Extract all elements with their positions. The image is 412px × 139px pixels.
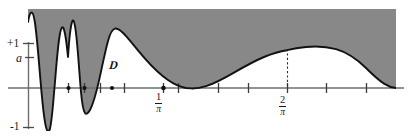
shaded-region-D bbox=[28, 9, 396, 132]
shade-path bbox=[28, 9, 396, 132]
zero-dot-3 bbox=[110, 86, 114, 90]
y-label-plus-one: +1 bbox=[7, 38, 19, 50]
x-label-two-over-pi-numerator: 2 bbox=[279, 95, 286, 106]
plot-svg bbox=[0, 0, 412, 139]
zero-dot-4 bbox=[161, 86, 166, 91]
zero-dot-1 bbox=[66, 86, 70, 90]
figure-container: +1 a -1 1 π 2 π D bbox=[0, 0, 412, 139]
x-label-two-over-pi-denominator: π bbox=[279, 108, 286, 118]
x-label-two-over-pi: 2 π bbox=[279, 95, 286, 117]
y-label-a: a bbox=[16, 52, 22, 64]
region-label-D: D bbox=[108, 58, 118, 73]
x-label-one-over-pi-numerator: 1 bbox=[155, 92, 162, 103]
zero-dot-2 bbox=[82, 86, 86, 90]
x-label-one-over-pi-denominator: π bbox=[155, 105, 162, 115]
y-label-minus-one: -1 bbox=[10, 121, 20, 133]
x-label-one-over-pi: 1 π bbox=[155, 92, 162, 114]
